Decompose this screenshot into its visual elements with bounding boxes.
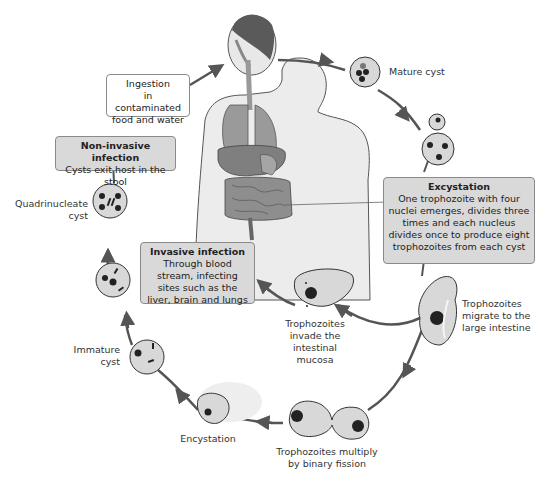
migrate-line-2: migrate to the: [462, 310, 531, 322]
trophozoite-invade-cell: [294, 269, 353, 307]
ingestion-line-3: food and water: [111, 114, 185, 126]
trophozoite-migrate-cell: [419, 277, 457, 345]
ingestion-box: Ingestion in contaminated food and water: [106, 74, 190, 117]
quadrinucleate-line-2: cyst: [0, 210, 88, 222]
mature-cyst-cell: [350, 57, 380, 87]
trophozoites-migrate-label: Trophozoites migrate to the large intest…: [462, 298, 531, 334]
encystation-cell: [197, 382, 262, 423]
quadrinucleate-line-1: Quadrinucleate: [0, 198, 88, 210]
trophozoites-invade-label: Trophozoites invade the intestinal mucos…: [275, 318, 355, 366]
ingestion-line-1: Ingestion: [111, 78, 185, 90]
invasive-infection-box: Invasive infection Through blood stream,…: [140, 242, 255, 304]
encystation-label: Encystation: [178, 433, 238, 445]
invade-line-2: invade the: [275, 330, 355, 342]
immature-line-1: Immature: [60, 344, 120, 356]
ingestion-line-2: in contaminated: [111, 90, 185, 114]
binary-fission-cells: [289, 401, 368, 439]
excysting-cyst-cell: [422, 114, 454, 165]
immature-line-2: cyst: [60, 356, 120, 368]
non-invasive-title: Non-invasive infection: [60, 140, 171, 164]
immature-cyst-label: Immature cyst: [60, 344, 120, 368]
quadrinucleate-cyst-label: Quadrinucleate cyst: [0, 198, 88, 222]
non-invasive-infection-box: Non-invasive infection Cysts exit host i…: [55, 136, 176, 171]
amoebiasis-life-cycle-diagram: Ingestion in contaminated food and water…: [0, 0, 559, 483]
invade-line-1: Trophozoites: [275, 318, 355, 330]
immature-cyst-cell: [130, 340, 164, 374]
migrate-line-3: large intestine: [462, 322, 531, 334]
invade-line-4: mucosa: [275, 354, 355, 366]
migrate-line-1: Trophozoites: [462, 298, 531, 310]
quadrinucleate-cyst-cell: [93, 184, 127, 218]
binary-fission-label: Trophozoites multiply by binary fission: [272, 446, 382, 470]
binucleate-cyst-cell: [96, 263, 130, 297]
mature-cyst-label: Mature cyst: [389, 66, 445, 78]
excystation-title: Excystation: [388, 181, 530, 193]
non-invasive-body: Cysts exit host in the stool: [60, 164, 171, 188]
invasive-title: Invasive infection: [145, 246, 250, 258]
invasive-body: Through blood stream, infecting sites su…: [145, 258, 250, 306]
fission-line-2: by binary fission: [272, 458, 382, 470]
excystation-body: One trophozoite with four nuclei emerges…: [388, 193, 530, 253]
fission-line-1: Trophozoites multiply: [272, 446, 382, 458]
excystation-box: Excystation One trophozoite with four nu…: [383, 177, 535, 264]
invade-line-3: intestinal: [275, 342, 355, 354]
